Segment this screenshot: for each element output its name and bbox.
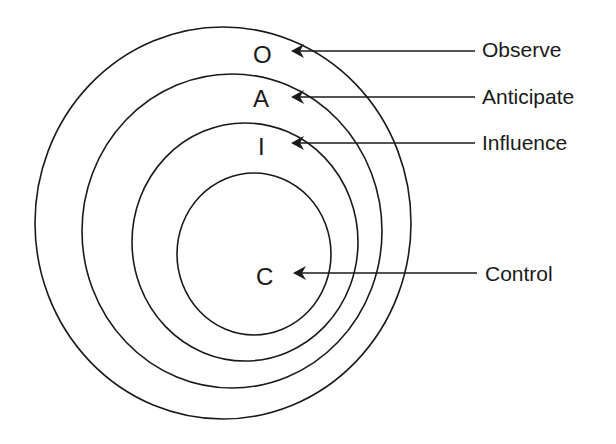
letter-i: I <box>258 133 265 160</box>
label-anticipate: Anticipate <box>482 85 574 108</box>
arrow-control <box>293 266 477 280</box>
ring-influence <box>132 123 358 361</box>
letter-o: O <box>253 41 272 68</box>
label-observe: Observe <box>482 38 561 61</box>
arrow-observe <box>291 44 475 58</box>
arrow-influence <box>291 136 475 150</box>
ring-observe <box>35 27 411 419</box>
label-control: Control <box>485 262 553 285</box>
ring-control <box>177 173 331 335</box>
label-influence: Influence <box>482 131 567 154</box>
letter-c: C <box>256 263 273 290</box>
letter-a: A <box>253 85 269 112</box>
oaic-nested-circles-diagram: O A I C Observe Anticipate Influence Con… <box>0 0 616 444</box>
ring-anticipate <box>82 74 382 388</box>
